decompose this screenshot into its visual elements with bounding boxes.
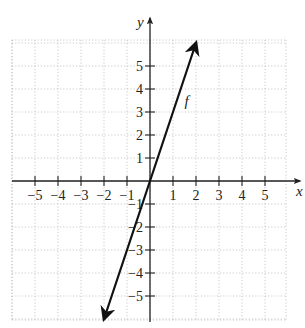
svg-text:1: 1 [170, 188, 177, 203]
svg-text:3: 3 [136, 105, 143, 120]
svg-text:1: 1 [136, 151, 143, 166]
svg-text:−4: −4 [51, 188, 66, 203]
function-graph: −5−4−3−2−112345−5−4−3−2−112345 x y f [0, 0, 305, 328]
grid-lines [12, 40, 286, 320]
svg-text:5: 5 [136, 59, 143, 74]
axes [12, 18, 300, 322]
svg-text:−3: −3 [128, 243, 143, 258]
svg-text:2: 2 [193, 188, 200, 203]
svg-text:−3: −3 [74, 188, 89, 203]
svg-text:3: 3 [216, 188, 223, 203]
y-axis-label: y [135, 14, 144, 30]
svg-text:−5: −5 [28, 188, 43, 203]
x-axis-label: x [295, 183, 303, 199]
svg-text:−2: −2 [97, 188, 112, 203]
svg-text:4: 4 [136, 82, 143, 97]
curve-label-f: f [185, 93, 191, 109]
svg-text:4: 4 [239, 188, 246, 203]
svg-text:−4: −4 [128, 266, 143, 281]
svg-text:5: 5 [262, 188, 269, 203]
svg-text:2: 2 [136, 128, 143, 143]
svg-text:−5: −5 [128, 289, 143, 304]
